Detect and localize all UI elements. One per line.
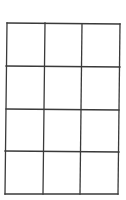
column-divider-1 bbox=[43, 23, 45, 194]
row-divider-3 bbox=[5, 151, 119, 152]
column-divider-2 bbox=[80, 24, 82, 194]
grid-diagram bbox=[0, 0, 126, 200]
frame-top-line bbox=[7, 23, 120, 24]
row-divider-2 bbox=[6, 109, 119, 110]
grid-svg bbox=[0, 0, 126, 200]
frame-right-line bbox=[118, 24, 120, 194]
row-divider-1 bbox=[6, 66, 120, 67]
